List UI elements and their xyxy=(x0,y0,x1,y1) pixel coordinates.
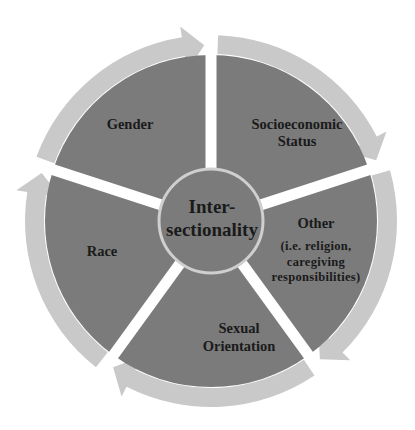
intersectionality-cycle-diagram: Inter- sectionality Gender Socioeconomic… xyxy=(0,0,415,430)
segment-label-socioeconomic-line-1: Socioeconomic xyxy=(251,116,343,132)
segment-sublabel-other-line-2: caregiving xyxy=(287,255,346,269)
segment-label-socioeconomic-line-2: Status xyxy=(278,133,317,149)
center-label-line-1: Inter- xyxy=(189,196,236,217)
segment-sublabel-other-line-3: responsibilities) xyxy=(272,270,361,284)
segment-label-gender: Gender xyxy=(107,116,154,132)
segment-label-race: Race xyxy=(87,243,118,259)
center-label-line-2: sectionality xyxy=(166,219,258,240)
segment-sublabel-other-line-1: (i.e. religion, xyxy=(281,239,352,253)
segment-label-sexual-orientation-line-1: Sexual xyxy=(218,320,259,336)
segment-label-sexual-orientation-line-2: Orientation xyxy=(203,338,276,354)
segment-label-other: Other xyxy=(297,215,335,231)
